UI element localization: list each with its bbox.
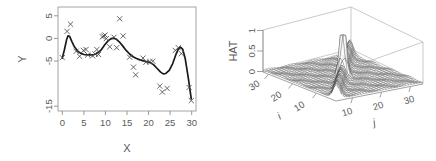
y-tick-label-0: 5: [43, 13, 54, 18]
y-axis-ticks: [54, 16, 58, 106]
data-point-marker: [107, 44, 112, 49]
x-axis-title: X: [123, 142, 131, 154]
scatter-plot-svg: 5 0 -5 -15 0 5 10 15 20 25: [0, 0, 218, 161]
data-point-marker: [77, 54, 82, 59]
data-point-marker: [150, 59, 155, 64]
x-tick-label-5: 25: [165, 117, 176, 128]
x-tick-label-2: 10: [100, 117, 111, 128]
z-tick-label-2: 1: [246, 28, 257, 33]
data-point-marker: [127, 55, 132, 60]
x-tick-label-1: 5: [81, 117, 86, 128]
y-tick-label-1: 0: [43, 36, 54, 41]
data-point-marker: [114, 45, 119, 50]
z-axis-tick-labels: 1 0.5 0: [246, 28, 257, 74]
i-axis-title: i: [275, 110, 284, 122]
z-tick-label-0: 0: [246, 69, 257, 74]
fit-curve-layer: [62, 36, 191, 99]
plot-frame: [58, 7, 196, 111]
j-axis-tick-labels: 10 20 30: [340, 93, 415, 119]
figure-container: 5 0 -5 -15 0 5 10 15 20 25: [0, 0, 436, 161]
i-tick-label-20: 20: [269, 89, 284, 104]
x-axis-ticks: [62, 111, 191, 115]
x-tick-label-0: 0: [60, 117, 65, 128]
j-tick-label-20: 20: [371, 99, 384, 113]
fit-curve: [62, 36, 191, 99]
x-axis-tick-labels: 0 5 10 15 20 25 30: [60, 117, 197, 128]
j-tick-label-30: 30: [402, 93, 415, 107]
j-axis-title: j: [369, 116, 377, 129]
y-axis-title: Y: [16, 55, 28, 63]
z-axis-title: HAT: [227, 40, 239, 61]
scatter-plot-panel: 5 0 -5 -15 0 5 10 15 20 25: [0, 0, 218, 161]
data-point-marker: [157, 84, 162, 89]
i-tick-label-10: 10: [292, 99, 307, 114]
data-point-marker: [121, 33, 126, 38]
data-point-marker: [133, 72, 138, 77]
x-tick-label-6: 30: [186, 117, 197, 128]
x-tick-label-4: 20: [143, 117, 154, 128]
z-tick-label-1: 0.5: [246, 44, 257, 57]
surface-plot-panel: 1 0.5 0 HAT 30 20 10 i: [218, 0, 436, 161]
data-point-marker: [131, 65, 136, 70]
data-point-marker: [68, 22, 73, 27]
data-point-marker: [165, 86, 170, 91]
surface-plot-svg: 1 0.5 0 HAT 30 20 10 i: [218, 0, 436, 161]
data-point-marker: [94, 47, 99, 52]
y-tick-label-2: -5: [43, 57, 54, 65]
y-tick-label-3: -15: [43, 99, 54, 113]
data-point-marker: [117, 16, 122, 21]
surface-mesh: [263, 34, 423, 96]
i-tick-label-30: 30: [247, 78, 262, 93]
data-point-marker: [160, 89, 165, 94]
z-axis: [257, 30, 263, 72]
y-axis-tick-labels: 5 0 -5 -15: [43, 13, 54, 113]
data-point-marker: [64, 29, 69, 34]
x-tick-label-3: 15: [122, 117, 133, 128]
j-tick-label-10: 10: [340, 105, 353, 119]
